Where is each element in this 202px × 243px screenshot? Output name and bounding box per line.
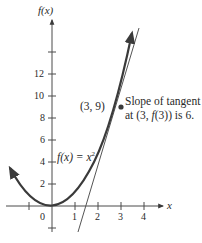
x-tick-label-0: 0 [40,212,45,222]
x-tick-label-2: 2 [95,212,100,222]
annotation-suffix: (3)) is 6. [155,109,194,121]
slope-annotation-line2: at (3, f(3)) is 6. [125,108,200,122]
function-label: f(x) = x2 [57,151,95,163]
y-tick-label-4: 4 [40,157,45,167]
x-tick-label-1: 1 [72,212,77,222]
x-tick-label-3: 3 [118,212,123,222]
point-label: (3, 9) [80,101,105,113]
y-axis [48,20,56,232]
tangent-line-figure: f(x) x 0 1 2 3 4 2 4 6 8 10 12 f(x) = x2… [0,0,202,243]
y-tick-label-6: 6 [40,135,45,145]
x-axis-label: x [167,200,172,211]
annotation-prefix: at (3, [125,109,152,121]
y-tick-label-8: 8 [40,113,45,123]
y-tick-label-10: 10 [34,91,44,101]
y-tick-label-2: 2 [40,179,45,189]
function-label-text: f(x) = x [57,151,92,163]
parabola-curve [10,33,132,206]
slope-annotation-line1: Slope of tangent [125,94,200,108]
tangency-point [118,104,123,109]
y-axis-label: f(x) [38,5,53,16]
y-tick-label-12: 12 [34,69,44,79]
tangent-line [78,28,139,232]
slope-annotation: Slope of tangent at (3, f(3)) is 6. [125,94,200,122]
function-label-exponent: 2 [92,150,96,158]
x-tick-label-4: 4 [141,212,146,222]
